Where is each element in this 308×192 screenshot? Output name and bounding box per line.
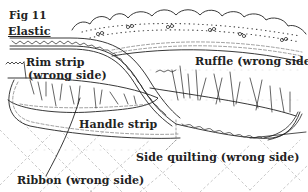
label-elastic: Elastic bbox=[8, 26, 51, 38]
label-ribbon: Ribbon (wrong side) bbox=[17, 175, 144, 187]
handle-strip-outline bbox=[8, 78, 158, 113]
gather-lines bbox=[30, 80, 136, 108]
rim-strip-zigzag bbox=[6, 62, 24, 64]
side-quilting-dashed bbox=[166, 120, 176, 150]
label-side-quilting: Side quilting (wrong side) bbox=[136, 152, 300, 164]
side-quilting-band bbox=[264, 112, 298, 138]
handle-strip-stitch-2 bbox=[20, 104, 150, 108]
ruffle-flowers bbox=[96, 24, 287, 41]
ruffle-small-zigzag bbox=[156, 70, 176, 72]
ruffle-gather-lines bbox=[172, 66, 290, 112]
label-handle-strip: Handle strip bbox=[79, 119, 157, 131]
sewing-diagram-fig-11: Fig 11 Elastic Rim strip (wrong side) Ru… bbox=[0, 0, 308, 192]
label-ruffle: Ruffle (wrong side) bbox=[195, 56, 308, 68]
label-rim-strip-side: (wrong side) bbox=[28, 70, 107, 82]
ruffle-lower-edge bbox=[150, 88, 296, 116]
side-quilting-band-2 bbox=[268, 114, 302, 140]
ruffle-flower-dots bbox=[82, 24, 300, 43]
side-quilting-scallop bbox=[182, 124, 262, 138]
figure-title: Fig 11 bbox=[9, 9, 47, 21]
label-rim-strip: Rim strip bbox=[26, 57, 85, 69]
ribbon-line bbox=[46, 98, 80, 176]
